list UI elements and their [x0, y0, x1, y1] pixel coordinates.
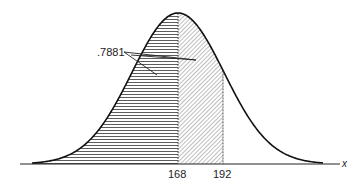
normal-curve-chart	[0, 0, 363, 187]
tick-label-168: 168	[168, 169, 186, 180]
x-axis-label: x	[342, 159, 347, 169]
tick-label-192: 192	[213, 169, 231, 180]
area-label: .7881	[97, 47, 125, 58]
shaded-regions	[32, 13, 223, 164]
